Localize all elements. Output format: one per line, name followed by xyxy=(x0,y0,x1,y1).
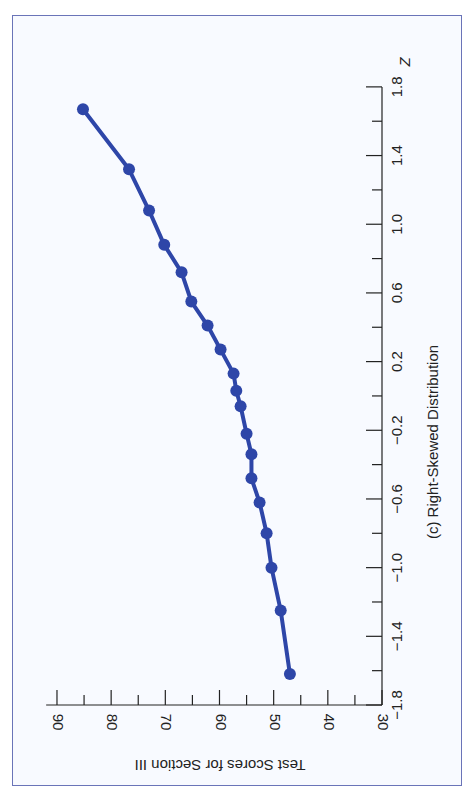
data-point xyxy=(235,400,247,412)
data-point xyxy=(245,472,257,484)
score-tick-label: 40 xyxy=(321,714,338,731)
data-point xyxy=(230,385,242,397)
z-tick-label: 1.4 xyxy=(388,145,405,166)
data-point xyxy=(265,562,277,574)
z-tick-label: −1.4 xyxy=(388,622,405,652)
z-tick-label: −0.6 xyxy=(388,484,405,514)
z-tick-label: 1.8 xyxy=(388,76,405,97)
data-point xyxy=(123,163,135,175)
score-tick-label: 50 xyxy=(267,714,284,731)
z-tick-label: 0.6 xyxy=(388,282,405,303)
z-tick-label: 0.2 xyxy=(388,351,405,372)
score-axis-label: Test Scores for Section III xyxy=(135,757,306,774)
score-tick-label: 90 xyxy=(50,714,67,731)
data-point xyxy=(158,239,170,251)
data-point xyxy=(275,605,287,617)
line-chart: −1.8−1.4−1.0−0.6−0.20.20.61.01.41.830405… xyxy=(0,0,475,798)
plot-area xyxy=(77,103,296,680)
data-point xyxy=(143,205,155,217)
data-point xyxy=(261,527,273,539)
data-point xyxy=(185,296,197,308)
score-tick-label: 60 xyxy=(213,714,230,731)
score-tick-label: 30 xyxy=(375,714,392,731)
data-point xyxy=(215,344,227,356)
data-point xyxy=(228,368,240,380)
score-tick-label: 70 xyxy=(158,714,175,731)
data-point xyxy=(77,103,89,115)
data-point xyxy=(202,320,214,332)
z-tick-label: −0.2 xyxy=(388,415,405,445)
z-tick-label: 1.0 xyxy=(388,214,405,235)
data-point xyxy=(284,668,296,680)
score-tick-label: 80 xyxy=(104,714,121,731)
data-point xyxy=(245,448,257,460)
z-axis-label: Z xyxy=(396,57,413,68)
data-point xyxy=(254,496,266,508)
z-tick-label: −1.0 xyxy=(388,553,405,583)
chart-caption: (c) Right-Skewed Distribution xyxy=(424,345,441,539)
series-line xyxy=(83,109,290,674)
data-point xyxy=(241,428,253,440)
data-point xyxy=(176,266,188,278)
axes: −1.8−1.4−1.0−0.6−0.20.20.61.01.41.830405… xyxy=(46,76,405,730)
